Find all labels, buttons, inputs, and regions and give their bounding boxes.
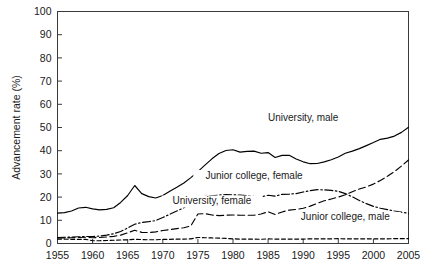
y-tick-label-70: 70	[40, 75, 52, 87]
y-tick-label-50: 50	[40, 121, 52, 133]
x-axis-ticks	[58, 239, 409, 244]
x-tick-label-1995: 1995	[327, 249, 351, 261]
series-label-university-male: University, male	[258, 112, 348, 125]
y-tick-label-30: 30	[40, 168, 52, 180]
x-tick-label-1980: 1980	[221, 249, 245, 261]
y-axis-ticks	[58, 12, 63, 244]
x-tick-label-1990: 1990	[292, 249, 316, 261]
advancement-rate-line-chart: 0102030405060708090100 19551960196519701…	[0, 0, 431, 278]
x-tick-label-1965: 1965	[116, 249, 140, 261]
x-tick-label-2005: 2005	[397, 249, 421, 261]
x-tick-label-1970: 1970	[151, 249, 175, 261]
y-tick-label-60: 60	[40, 98, 52, 110]
x-tick-label-1960: 1960	[81, 249, 105, 261]
series-label-text: Junior college, male	[301, 211, 390, 222]
chart-figure: 0102030405060708090100 19551960196519701…	[0, 0, 431, 278]
series-annotations: University, maleJunior college, femaleUn…	[162, 112, 401, 224]
series-label-text: University, female	[173, 195, 252, 206]
series-label-junior-college-female: Junior college, female	[193, 170, 315, 183]
y-tick-label-80: 80	[40, 52, 52, 64]
x-axis-tick-labels: 1955196019651970197519801985199019952000…	[46, 249, 421, 261]
y-tick-label-40: 40	[40, 144, 52, 156]
y-tick-label-10: 10	[40, 214, 52, 226]
x-tick-label-1975: 1975	[186, 249, 210, 261]
y-tick-label-100: 100	[34, 5, 52, 17]
x-tick-label-1985: 1985	[256, 249, 280, 261]
y-axis-tick-labels: 0102030405060708090100	[34, 5, 52, 249]
x-tick-label-1955: 1955	[46, 249, 70, 261]
series-label-university-female: University, female	[162, 195, 263, 208]
series-label-text: University, male	[268, 112, 339, 123]
y-tick-label-90: 90	[40, 28, 52, 40]
series-label-junior-college-male: Junior college, male	[290, 211, 401, 224]
y-tick-label-0: 0	[46, 237, 52, 249]
series-label-text: Junior college, female	[205, 170, 303, 181]
y-axis-title: Advancement rate (%)	[10, 75, 22, 179]
x-tick-label-2000: 2000	[362, 249, 386, 261]
y-tick-label-20: 20	[40, 191, 52, 203]
